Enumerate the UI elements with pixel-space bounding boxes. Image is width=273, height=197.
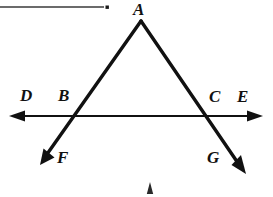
label-point-e: E [237, 88, 248, 105]
arrowhead-e-icon [247, 111, 263, 122]
label-point-f: F [57, 149, 68, 166]
figure-canvas [0, 0, 273, 197]
label-point-g: G [207, 149, 219, 166]
ray-a-g [141, 21, 246, 174]
top-rule-dot-icon [106, 6, 109, 9]
label-point-a: A [133, 1, 144, 18]
label-point-c: C [209, 88, 220, 105]
bottom-caret-artifact-icon [147, 182, 153, 194]
geometry-figure: A D B C E F G [0, 0, 273, 197]
line-d-e [9, 111, 263, 122]
arrowhead-d-icon [9, 111, 25, 122]
label-point-b: B [58, 87, 69, 104]
ray-a-f [40, 21, 141, 165]
label-point-d: D [20, 87, 32, 104]
